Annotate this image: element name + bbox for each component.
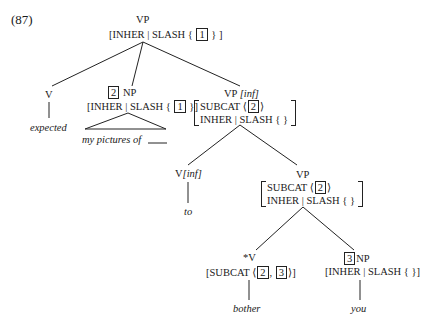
lower-vp-avm: SUBCAT ⟨2⟩ INHER | SLASH { } bbox=[261, 181, 363, 207]
root-vp-category: VP bbox=[136, 14, 149, 26]
tag-box-2: 2 bbox=[248, 100, 259, 113]
v-bother-features: [SUBCAT ⟨2, 3⟩] bbox=[206, 266, 296, 279]
word-to: to bbox=[184, 206, 192, 218]
word-you: you bbox=[351, 303, 366, 315]
np-object-category: 2 NP bbox=[107, 86, 136, 99]
v-bother-category: *V bbox=[243, 252, 256, 264]
example-number: (87) bbox=[11, 14, 33, 26]
v-category: V bbox=[45, 89, 53, 101]
tag-box-3: 3 bbox=[276, 266, 287, 279]
tag-box-3: 3 bbox=[344, 252, 355, 265]
vp-inf-category: VP [inf] bbox=[224, 88, 259, 100]
tag-box-1: 1 bbox=[174, 100, 185, 113]
tag-box-2: 2 bbox=[257, 266, 268, 279]
words-my-pictures-of: my pictures of bbox=[82, 134, 141, 146]
root-vp-features: [INHER | SLASH { 1 } ] bbox=[109, 28, 223, 41]
lower-vp-category: VP bbox=[296, 169, 309, 181]
tag-box-1: 1 bbox=[196, 28, 207, 41]
word-bother: bother bbox=[233, 303, 260, 315]
vp-inf-avm: SUBCAT ⟨2⟩ INHER | SLASH { } bbox=[194, 100, 296, 126]
v-inf-category: V[inf] bbox=[175, 168, 202, 180]
tag-box-2: 2 bbox=[108, 86, 119, 99]
word-expected: expected bbox=[30, 122, 67, 134]
np-you-category: 3NP bbox=[343, 252, 370, 265]
np-object-features: [INHER | SLASH { 1 }] bbox=[87, 100, 198, 113]
tag-box-2: 2 bbox=[315, 181, 326, 194]
np-you-features: [INHER | SLASH { }] bbox=[325, 266, 420, 278]
